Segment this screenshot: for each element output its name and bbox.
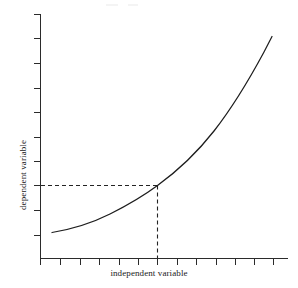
x-axis-ticks [41,259,274,266]
plot-area [0,0,298,288]
y-axis-ticks [34,15,41,236]
x-axis-label: independent variable [0,268,298,278]
chart-figure: independent variable dependent variable [0,0,298,288]
y-axis-label: dependent variable [18,40,28,210]
data-curve [52,37,272,233]
